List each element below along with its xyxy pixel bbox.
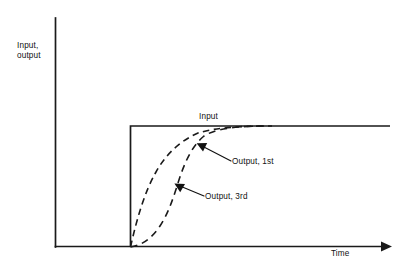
output-first-order-label: Output, 1st <box>232 157 274 167</box>
figure-root: Input,output Time Input Output, 1st Outp… <box>0 0 415 264</box>
y-axis-label-line2: output <box>17 51 41 60</box>
chart-canvas <box>0 0 415 264</box>
step-input-line <box>131 126 391 247</box>
input-series-label: Input <box>199 112 218 122</box>
output-first-leader-line <box>202 146 231 161</box>
output-third-order-label: Output, 3rd <box>205 192 248 202</box>
y-axis-label: Input,output <box>17 41 41 61</box>
y-axis-label-line1: Input, <box>17 41 38 50</box>
x-axis-arrow-icon <box>381 242 392 252</box>
output-third-leader-line <box>180 186 204 196</box>
x-axis-label: Time <box>331 249 350 259</box>
